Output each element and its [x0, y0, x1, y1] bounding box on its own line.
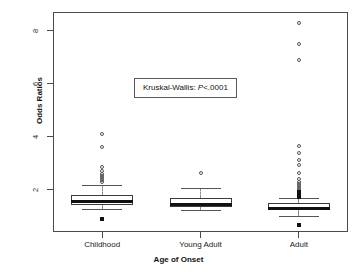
outlier-point	[297, 58, 301, 62]
median-line	[268, 207, 330, 210]
annotation-value: <.0001	[203, 83, 228, 92]
outlier-point	[297, 195, 301, 199]
outlier-point	[297, 151, 301, 155]
outlier-point	[297, 144, 301, 148]
outlier-point	[297, 223, 301, 227]
outlier-point	[297, 21, 301, 25]
boxplot-figure: Odds Ratios 2468 ChildhoodYoung AdultAdu…	[0, 0, 357, 272]
outlier-point	[297, 171, 301, 175]
kruskal-wallis-annotation: Kruskal-Wallis: P<.0001	[134, 78, 237, 98]
outlier-point	[297, 163, 301, 167]
outlier-point	[297, 42, 301, 46]
annotation-prefix: Kruskal-Wallis:	[143, 83, 198, 92]
cap-lower	[279, 216, 319, 217]
outlier-point	[297, 158, 301, 162]
boxplot-adult	[0, 0, 357, 272]
